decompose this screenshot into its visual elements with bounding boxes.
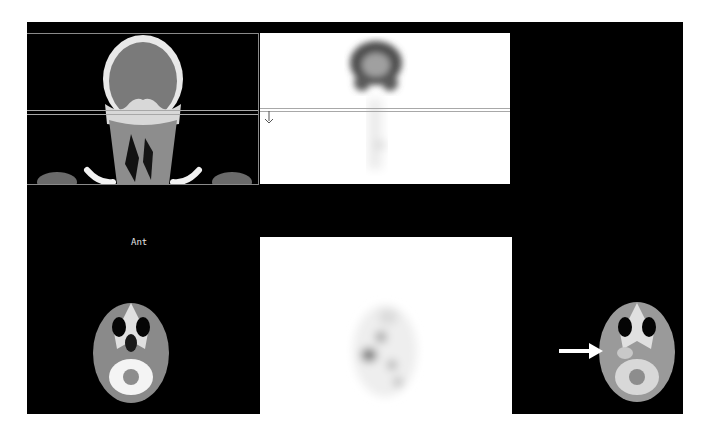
crosshair-line[interactable] — [260, 108, 510, 109]
fused-axial-image — [512, 237, 683, 412]
arrow-annotation-icon — [559, 343, 609, 359]
pet-axial-image — [260, 237, 512, 433]
pet-coronal-panel[interactable] — [260, 33, 510, 184]
crosshair-handle-icon[interactable] — [263, 111, 275, 125]
crosshair-line[interactable] — [27, 110, 259, 111]
orientation-label: Ant — [131, 237, 147, 247]
ct-coronal-panel[interactable] — [27, 33, 259, 185]
ct-axial-panel[interactable] — [27, 237, 260, 414]
crosshair-line[interactable] — [27, 114, 259, 115]
ct-axial-image — [27, 237, 260, 414]
pet-axial-panel[interactable] — [260, 237, 512, 433]
crosshair-line[interactable] — [260, 111, 510, 112]
fused-axial-panel[interactable] — [512, 237, 683, 412]
